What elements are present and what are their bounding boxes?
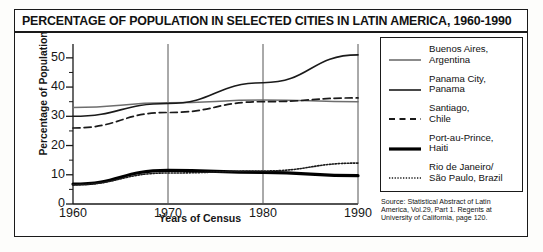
legend-label-3: Port-au-Prince,Haiti xyxy=(429,133,521,154)
legend-label-line2-4: São Paulo, Brazil xyxy=(429,173,521,184)
legend-label-2: Santiago,Chile xyxy=(429,103,521,124)
legend-label-line1-0: Buenos Aires, xyxy=(429,44,521,55)
figure-root: PERCENTAGE OF POPULATION IN SELECTED CIT… xyxy=(0,0,543,252)
source-line-2: America, Vol.29, Part 1. Regents at xyxy=(381,206,531,214)
legend-item-3[interactable]: Port-au-Prince,Haiti xyxy=(388,134,520,162)
title-divider xyxy=(15,31,527,33)
legend-label-line2-2: Chile xyxy=(429,114,521,125)
y-tick-label-20: 20 xyxy=(37,138,65,152)
legend: Buenos Aires,ArgentinaPanama City,Panama… xyxy=(380,37,523,192)
legend-label-line2-3: Haiti xyxy=(429,143,521,154)
legend-line-sample-3 xyxy=(388,140,422,150)
y-tick-label-30: 30 xyxy=(37,108,65,122)
legend-label-1: Panama City,Panama xyxy=(429,74,521,95)
x-tick-label-1990: 1990 xyxy=(335,206,381,220)
legend-label-line2-1: Panama xyxy=(429,84,521,95)
legend-item-1[interactable]: Panama City,Panama xyxy=(388,75,520,103)
legend-line-sample-2 xyxy=(388,110,422,120)
legend-label-0: Buenos Aires,Argentina xyxy=(429,44,521,65)
source-note: Source: Statistical Abstract of LatinAme… xyxy=(381,198,531,223)
legend-line-sample-1 xyxy=(388,81,422,91)
source-line-1: Source: Statistical Abstract of Latin xyxy=(381,198,531,206)
legend-label-line2-0: Argentina xyxy=(429,55,521,66)
chart-title: PERCENTAGE OF POPULATION IN SELECTED CIT… xyxy=(22,14,520,28)
source-line-3: University of California, page 120. xyxy=(381,214,531,222)
legend-item-4[interactable]: Rio de Janeiro/São Paulo, Brazil xyxy=(388,163,520,191)
plot-area: Percentage of Population 50403020100 196… xyxy=(20,36,372,236)
legend-label-line1-2: Santiago, xyxy=(429,103,521,114)
series-line-2 xyxy=(73,98,358,128)
y-tick-label-10: 10 xyxy=(37,167,65,181)
legend-label-line1-4: Rio de Janeiro/ xyxy=(429,162,521,173)
legend-label-4: Rio de Janeiro/São Paulo, Brazil xyxy=(429,162,521,183)
legend-item-2[interactable]: Santiago,Chile xyxy=(388,104,520,132)
x-axis-label: Years of Census xyxy=(60,212,340,224)
legend-line-sample-0 xyxy=(388,51,422,61)
y-tick-label-50: 50 xyxy=(37,50,65,64)
legend-item-0[interactable]: Buenos Aires,Argentina xyxy=(388,45,520,73)
y-tick-label-40: 40 xyxy=(37,79,65,93)
legend-line-sample-4 xyxy=(388,169,422,179)
